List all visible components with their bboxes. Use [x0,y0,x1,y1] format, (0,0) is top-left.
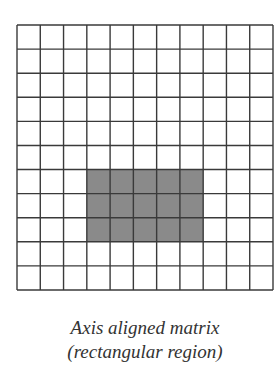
caption-line-2: (rectangular region) [0,340,278,364]
matrix-figure: Axis aligned matrix (rectangular region) [0,0,278,375]
highlight-rect [87,170,203,242]
highlighted-region [87,170,203,242]
grid-lines [17,25,273,290]
matrix-grid [0,0,278,300]
figure-caption: Axis aligned matrix (rectangular region) [0,316,278,364]
caption-line-1: Axis aligned matrix [0,316,278,340]
